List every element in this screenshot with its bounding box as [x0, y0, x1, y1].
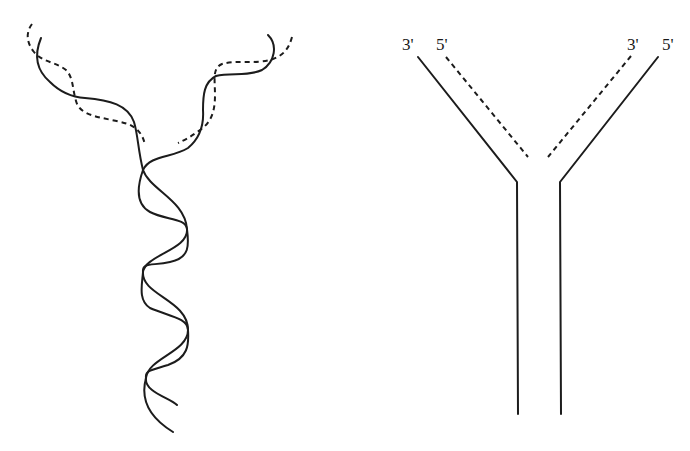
- label-right-inner-3prime: 3': [627, 35, 639, 54]
- left-branch-solid-strand: [37, 38, 143, 170]
- fork-left-parental-strand: [418, 57, 518, 414]
- right-branch-dashed-strand: [178, 37, 292, 143]
- label-right-outer-5prime: 5': [662, 35, 674, 54]
- left-branch-dashed-strand: [28, 24, 145, 145]
- fork-right-parental-strand: [560, 57, 658, 414]
- helix-panel: [28, 24, 292, 432]
- helix-strand-b: [139, 170, 189, 432]
- fork-schematic-panel: 3' 5' 3' 5': [402, 35, 674, 414]
- label-left-outer-3prime: 3': [402, 35, 414, 54]
- replication-fork-figure: 3' 5' 3' 5': [0, 0, 690, 451]
- label-left-inner-5prime: 5': [436, 35, 448, 54]
- right-branch-solid-strand: [143, 35, 274, 170]
